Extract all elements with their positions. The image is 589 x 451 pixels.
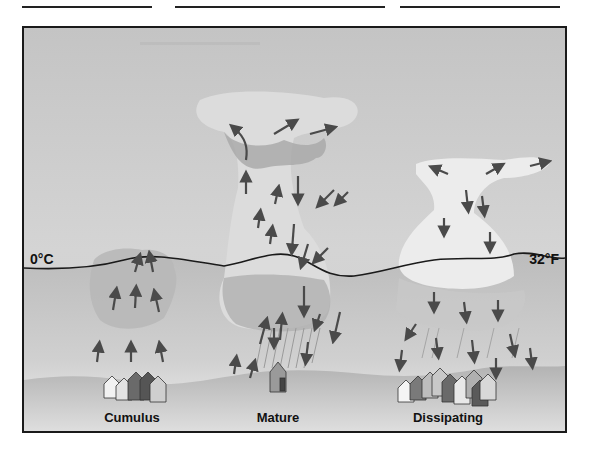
figure-title-cutoff (0, 0, 589, 8)
cumulus-cloud (90, 248, 177, 328)
thunderstorm-lifecycle-diagram (24, 28, 565, 431)
freezing-label-celsius: 0°C (30, 251, 54, 267)
faint-marks (140, 42, 260, 45)
diagram-frame: 0°C 32°F Cumulus Mature Dissipating (22, 26, 567, 433)
updraft-arrow (135, 290, 136, 308)
stage-label-dissipating: Dissipating (413, 410, 483, 425)
stage-label-mature: Mature (257, 410, 300, 425)
freezing-label-fahrenheit: 32°F (529, 251, 559, 267)
stage-label-cumulus: Cumulus (104, 410, 160, 425)
